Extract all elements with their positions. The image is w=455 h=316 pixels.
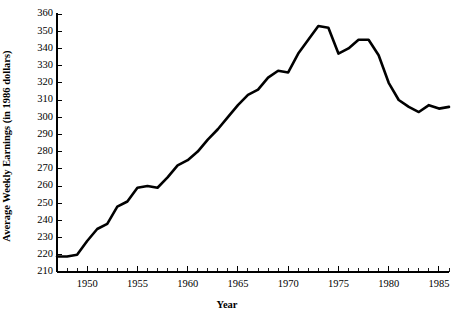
- y-tick-label: 250: [37, 197, 53, 208]
- chart-figure: 2102202302402502602702802903003103203303…: [0, 0, 455, 316]
- y-tick-label: 320: [37, 76, 53, 87]
- x-axis-group: 19501955196019651970197519801985: [57, 266, 449, 289]
- y-tick-label: 330: [37, 59, 53, 70]
- x-axis-title: Year: [217, 299, 238, 310]
- x-tick-label: 1960: [177, 278, 198, 289]
- y-tick-label: 270: [37, 162, 53, 173]
- y-axis-title: Average Weekly Earnings (in 1986 dollars…: [1, 50, 13, 242]
- x-tick-label: 1970: [278, 278, 299, 289]
- earnings-series-line: [57, 26, 449, 256]
- y-tick-marks: [57, 14, 62, 272]
- x-tick-label: 1950: [77, 278, 98, 289]
- x-tick-label: 1965: [227, 278, 248, 289]
- y-tick-label: 310: [37, 93, 53, 104]
- line-chart: 2102202302402502602702802903003103203303…: [0, 0, 455, 316]
- x-major-tick-marks: [87, 266, 439, 272]
- x-tick-labels: 19501955196019651970197519801985: [77, 278, 450, 289]
- x-minor-tick-marks: [67, 268, 449, 272]
- y-tick-label: 340: [37, 42, 53, 53]
- y-axis-group: 2102202302402502602702802903003103203303…: [37, 7, 62, 276]
- y-tick-label: 260: [37, 179, 53, 190]
- y-tick-label: 280: [37, 145, 53, 156]
- x-tick-label: 1980: [378, 278, 399, 289]
- y-tick-label: 360: [37, 7, 53, 18]
- y-tick-label: 210: [37, 265, 53, 276]
- y-tick-label: 220: [37, 248, 53, 259]
- y-tick-label: 240: [37, 214, 53, 225]
- y-tick-label: 290: [37, 128, 53, 139]
- x-tick-label: 1985: [428, 278, 449, 289]
- y-tick-labels: 2102202302402502602702802903003103203303…: [37, 7, 53, 276]
- y-tick-label: 230: [37, 231, 53, 242]
- y-tick-label: 300: [37, 111, 53, 122]
- y-tick-label: 350: [37, 25, 53, 36]
- x-tick-label: 1955: [127, 278, 148, 289]
- x-tick-label: 1975: [328, 278, 349, 289]
